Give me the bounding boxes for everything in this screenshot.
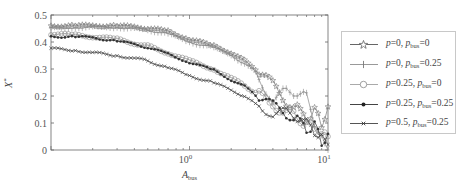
plus-marker-icon xyxy=(359,60,368,69)
y-tick-label: 0.5 xyxy=(35,10,48,21)
y-tick-label: 0.3 xyxy=(35,64,48,75)
y-tick-label: 0.1 xyxy=(35,118,48,129)
x-tick-label: 100 xyxy=(179,153,193,165)
y-tick-label: 0.2 xyxy=(35,91,48,102)
circle-marker-icon xyxy=(359,80,368,89)
y-axis: 00.10.20.30.40.5 xyxy=(35,10,329,156)
legend-item-4: p=0.25, pbus=0.25 xyxy=(342,98,457,112)
series-circle xyxy=(49,31,331,139)
legend-label: p=0.25, pbus=0 xyxy=(386,78,441,89)
legend-label: p=0.25, pbus=0.25 xyxy=(386,98,453,109)
x-axis-label: Abus xyxy=(181,169,198,181)
y-tick-label: 0.4 xyxy=(35,37,48,48)
star-marker-icon xyxy=(359,40,368,49)
legend: p=0, pbus=0 p=0, pbus=0.25 p=0.25, pbus=… xyxy=(341,31,456,134)
dot-marker-icon xyxy=(359,100,368,109)
legend-label: p=0, pbus=0 xyxy=(386,38,430,49)
x-marker-icon xyxy=(359,119,368,128)
legend-label: p=0, pbus=0.25 xyxy=(386,58,441,69)
legend-item-3: p=0.25, pbus=0 xyxy=(342,78,457,92)
legend-label: p=0.5, pbus=0.25 xyxy=(386,117,449,128)
series-group xyxy=(48,22,331,153)
series-plus xyxy=(50,23,330,153)
legend-item-1: p=0, pbus=0 xyxy=(342,38,457,52)
y-axis-label: X* xyxy=(2,78,14,89)
series-x xyxy=(49,46,329,146)
y-tick-label: 0 xyxy=(42,145,47,156)
x-tick-label: 101 xyxy=(317,153,331,165)
legend-item-5: p=0.5, pbus=0.25 xyxy=(342,117,457,131)
legend-item-2: p=0, pbus=0.25 xyxy=(342,58,457,72)
